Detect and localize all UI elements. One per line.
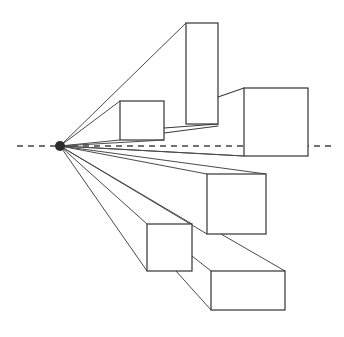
horizon-rays xyxy=(60,140,244,156)
box-lower-left xyxy=(60,146,192,271)
vanishing-point xyxy=(55,141,65,151)
diagram-svg xyxy=(0,0,344,337)
box-upper-small xyxy=(60,101,164,146)
perspective-diagram xyxy=(0,0,344,337)
